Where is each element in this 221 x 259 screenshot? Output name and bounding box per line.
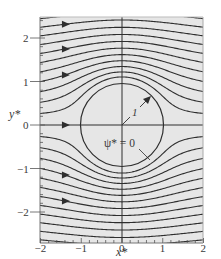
y-tick-label: 2: [23, 32, 29, 44]
x-tick-label: −2: [35, 242, 47, 254]
x-tick-label: 2: [201, 242, 207, 254]
y-axis-label: y*: [8, 107, 20, 121]
x-axis-label: x*: [115, 245, 127, 259]
y-tick-label: 1: [23, 76, 29, 88]
y-tick-label: 0: [23, 119, 29, 131]
x-tick-label: 1: [160, 242, 166, 254]
psi-zero-label: ψ* = 0: [104, 137, 135, 150]
streamline: [36, 5, 207, 11]
y-tick-label: −2: [17, 206, 29, 218]
x-tick-label: −1: [75, 242, 87, 254]
radius-label: 1: [132, 106, 138, 118]
streamline-figure: 1 ψ* = 0 −2−1012−2−1012 x* y*: [0, 0, 221, 259]
y-tick-label: −1: [17, 163, 29, 175]
